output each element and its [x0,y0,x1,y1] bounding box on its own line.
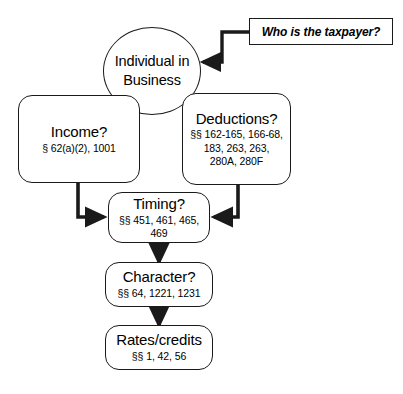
edge-income-to-timing [78,183,104,217]
callout-text: Who is the taxpayer? [262,25,381,39]
node-title: Income? [51,124,107,141]
node-citations-line-2: 469 [150,227,167,239]
node-rates-credits[interactable]: Rates/credits §§ 1, 42, 56 [105,325,213,370]
node-citations-line-1: §§ 451, 461, 465, [119,214,199,226]
flowchart-canvas: Individual in Business Income? § 62(a)(2… [0,0,403,394]
node-title: Rates/credits [116,332,202,349]
node-citations-line-3: 280A, 280F [210,155,263,167]
node-citations-line-2: 183, 263, 263, [204,142,270,154]
node-citations: §§ 64, 1221, 1231 [118,287,201,299]
edge-callout-to-root [203,32,249,62]
node-timing[interactable]: Timing? §§ 451, 461, 465, 469 [108,192,210,243]
node-title: Timing? [133,196,185,213]
node-title: Deductions? [196,111,278,128]
node-title: Individual in Business [104,52,200,90]
node-citations: § 62(a)(2), 1001 [42,142,116,154]
node-deductions[interactable]: Deductions? §§ 162-165, 166-68, 183, 263… [182,93,291,185]
edge-deductions-to-timing [214,185,238,217]
node-citations-line-1: §§ 162-165, 166-68, [190,128,283,140]
node-income[interactable]: Income? § 62(a)(2), 1001 [18,95,140,183]
node-character[interactable]: Character? §§ 64, 1221, 1231 [105,262,213,307]
node-citations: §§ 1, 42, 56 [132,350,186,362]
node-title: Character? [123,269,196,286]
callout-who-is-the-taxpayer[interactable]: Who is the taxpayer? [249,18,393,45]
